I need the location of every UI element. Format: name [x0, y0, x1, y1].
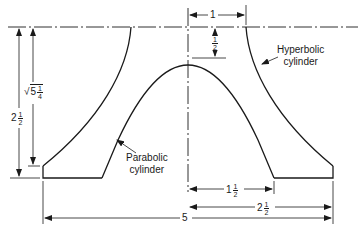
parabolic-cylinder-label: Parabolic cylinder — [126, 152, 168, 176]
left-base — [43, 166, 102, 178]
hyperbolic-cylinder-left-wall — [43, 27, 131, 166]
dim-top-width-text: 1 — [210, 9, 216, 20]
hyperbolic-label-line1: Hyperbolic — [277, 44, 324, 56]
parabolic-label-line2: cylinder — [126, 164, 168, 176]
fraction: 1 2 — [212, 36, 218, 51]
dim-total-width-text: 5 — [182, 212, 188, 223]
dim-height-sqrt-text: √514 — [24, 84, 43, 100]
hyperbolic-callout-leader — [262, 57, 278, 64]
dim-outer-half-width-text: 212 — [257, 201, 269, 216]
dim-inner-half-width-text: 112 — [226, 183, 238, 198]
cylinder-cross-section-diagram — [0, 0, 358, 226]
parabolic-label-line1: Parabolic — [126, 152, 168, 164]
dim-total-height-text: 212 — [11, 111, 23, 126]
hyperbolic-cylinder-label: Hyperbolic cylinder — [277, 44, 324, 68]
right-base — [274, 166, 333, 178]
sqrt-symbol: √514 — [24, 84, 43, 100]
hyperbolic-label-line2: cylinder — [277, 56, 324, 68]
dim-vertex-gap-text: 1 2 — [211, 36, 218, 51]
